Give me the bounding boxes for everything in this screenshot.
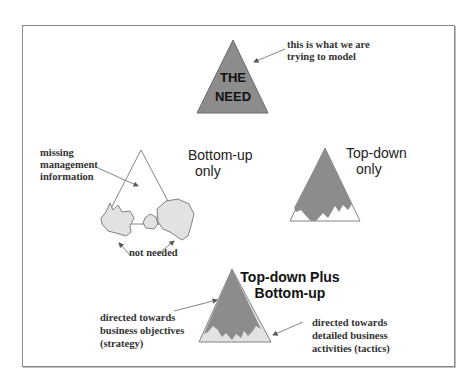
the-need-annotation-line1: this is what we are	[287, 39, 370, 50]
missing-annotation-line3: information	[40, 171, 94, 182]
tactics-annotation-line3: activities (tactics)	[312, 343, 390, 355]
bottom-up-right-blob	[157, 199, 194, 240]
combined-title-line1: Top-down Plus	[240, 269, 339, 285]
tactics-annotation-line1: directed towards	[312, 317, 387, 328]
bottom-up-title-line2: only	[195, 163, 221, 179]
the-need-arrow	[254, 49, 285, 62]
strategy-arrow	[174, 300, 217, 311]
missing-arrow	[98, 168, 138, 186]
combined-group: Top-down Plus Bottom-up directed towards…	[100, 269, 390, 355]
bottom-up-left-blob	[101, 203, 134, 236]
strategy-annotation-line2: business objectives	[100, 325, 184, 336]
diagram-canvas: THE NEED this is what we are trying to m…	[0, 0, 476, 390]
bottom-up-small-blob	[143, 214, 158, 229]
tactics-annotation-line2: detailed business	[312, 330, 388, 341]
the-need-label-line1: THE	[220, 70, 246, 85]
strategy-annotation-line3: (strategy)	[100, 338, 144, 350]
top-down-group: Top-down only	[290, 145, 407, 221]
the-need-group: THE NEED this is what we are trying to m…	[197, 39, 370, 113]
the-need-label-line2: NEED	[215, 89, 251, 104]
top-down-title-line2: only	[356, 161, 382, 177]
missing-annotation-line2: management	[40, 159, 98, 170]
not-needed-annotation: not needed	[129, 247, 178, 258]
the-need-annotation-line2: trying to model	[287, 51, 356, 62]
top-down-title-line1: Top-down	[346, 145, 407, 161]
bottom-up-title-line1: Bottom-up	[188, 147, 253, 163]
combined-title-line2: Bottom-up	[255, 285, 326, 301]
tactics-arrow	[273, 322, 303, 335]
bottom-up-group: Bottom-up only missing management inform…	[40, 147, 253, 258]
strategy-annotation-line1: directed towards	[100, 312, 175, 323]
missing-annotation-line1: missing	[40, 147, 75, 158]
